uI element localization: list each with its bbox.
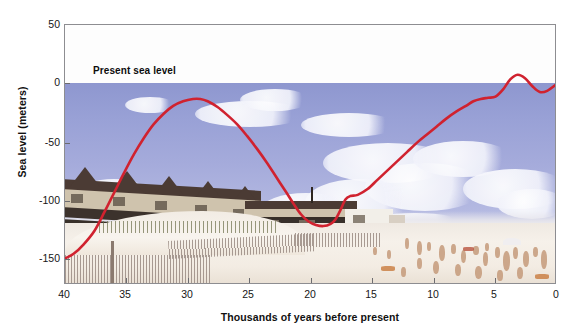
beachgoer: [451, 244, 456, 254]
beachgoer: [485, 243, 489, 251]
tickmark-x-10: [434, 278, 435, 283]
x-tick-label-40: 40: [44, 288, 84, 300]
window: [71, 194, 83, 203]
tickmark-x-25: [249, 278, 250, 283]
plot-area: Present sea level: [64, 24, 556, 284]
x-tick-label-20: 20: [290, 288, 330, 300]
sea-level-figure: Sea level (meters) 50 0 -50 -100 -150 40…: [0, 0, 574, 335]
beachgoer: [517, 267, 523, 279]
y-axis-tick-labels: 50 0 -50 -100 -150: [10, 0, 60, 335]
beachgoer: [433, 261, 439, 274]
beachgoer: [417, 258, 422, 269]
x-tick-label-15: 15: [351, 288, 391, 300]
x-tick-label-25: 25: [228, 288, 268, 300]
y-tick-label-50: 50: [16, 18, 60, 30]
beachgoer: [417, 241, 422, 255]
dune-grass: [99, 221, 279, 233]
present-sea-level-label: Present sea level: [93, 65, 176, 76]
beachgoer: [387, 250, 391, 259]
x-tick-label-10: 10: [413, 288, 453, 300]
beachgoer: [513, 247, 518, 259]
y-tick-label--150: -150: [16, 252, 60, 264]
tickmark-y--150: [65, 259, 70, 260]
beachgoer: [455, 264, 461, 276]
tickmark-y--50: [65, 143, 70, 144]
y-tick-label-0: 0: [16, 76, 60, 88]
beachgoer: [405, 238, 409, 249]
beachgoer: [401, 267, 406, 277]
beachgoer: [439, 245, 445, 261]
beachgoer: [541, 250, 547, 269]
x-tick-label-5: 5: [474, 288, 514, 300]
beachgoer: [461, 250, 466, 263]
x-tick-label-0: 0: [536, 288, 574, 300]
tickmark-x-15: [372, 278, 373, 283]
beach-photograph: [65, 83, 555, 284]
beachgoer: [523, 251, 529, 267]
beachgoer: [495, 247, 500, 258]
beach-towel: [381, 266, 395, 271]
cloud: [240, 89, 310, 111]
beach-towel: [535, 274, 549, 279]
fence-post: [111, 241, 114, 284]
tickmark-x-30: [188, 278, 189, 283]
cloud: [301, 113, 397, 137]
beachgoer: [475, 266, 482, 279]
beachgoer: [427, 242, 431, 251]
window: [353, 215, 365, 223]
tickmark-x-35: [126, 278, 127, 283]
beachgoer: [533, 247, 538, 257]
x-tick-label-30: 30: [167, 288, 207, 300]
tickmark-x-20: [311, 278, 312, 283]
x-axis-title: Thousands of years before present: [64, 311, 556, 323]
antenna: [311, 187, 313, 203]
beachgoer: [497, 270, 503, 281]
tickmark-y--100: [65, 201, 70, 202]
y-tick-label--100: -100: [16, 194, 60, 206]
beachgoer: [503, 251, 510, 271]
tickmark-x-5: [495, 278, 496, 283]
window: [155, 201, 167, 210]
window: [113, 197, 125, 206]
picket-fence: [65, 255, 211, 284]
picket-fence: [295, 233, 381, 247]
tickmark-y-0: [65, 83, 70, 84]
beach-umbrella: [503, 238, 521, 245]
x-tick-label-35: 35: [105, 288, 145, 300]
beachgoer: [483, 252, 488, 266]
beach-towel: [463, 247, 474, 251]
y-tick-label--50: -50: [16, 136, 60, 148]
beachgoer: [373, 247, 377, 255]
cloud: [125, 97, 175, 113]
